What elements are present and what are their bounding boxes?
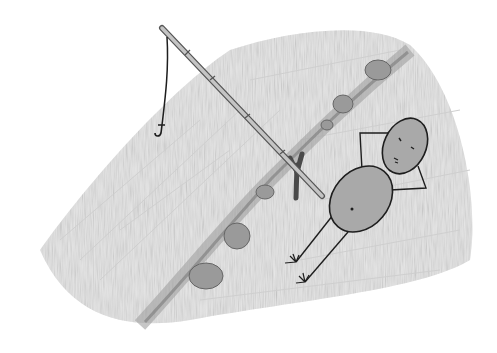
rock: [365, 60, 391, 80]
rock: [189, 263, 223, 289]
rock: [321, 120, 333, 130]
sketch-canvas: [0, 0, 497, 353]
sketch-illustration: [0, 0, 497, 353]
rock: [333, 95, 353, 113]
rock: [256, 185, 274, 199]
grass-shading: [40, 30, 473, 323]
navel: [351, 208, 354, 211]
rock: [224, 223, 250, 249]
